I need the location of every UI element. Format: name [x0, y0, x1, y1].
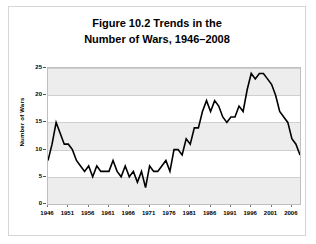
y-tick-mark [43, 121, 46, 122]
y-tick-label: 25 [20, 64, 42, 70]
gridline-y [48, 204, 300, 205]
y-tick-mark [43, 149, 46, 150]
y-tick-label: 15 [20, 118, 42, 124]
x-tick-label: 2006 [279, 210, 303, 217]
wars-line-path [48, 73, 300, 187]
plot-canvas [47, 67, 301, 205]
figure-title-line-2: Number of Wars, 1946–2008 [9, 31, 305, 47]
y-tick-label: 0 [20, 200, 42, 206]
y-tick-mark [43, 203, 46, 204]
y-tick-mark [43, 176, 46, 177]
y-tick-mark [43, 94, 46, 95]
y-tick-mark [43, 67, 46, 68]
figure-title: Figure 10.2 Trends in the Number of Wars… [9, 15, 305, 47]
y-tick-label: 10 [20, 146, 42, 152]
figure-container: Figure 10.2 Trends in the Number of Wars… [8, 6, 306, 236]
y-tick-label: 5 [20, 173, 42, 179]
wars-line-series [48, 68, 300, 204]
figure-title-line-1: Figure 10.2 Trends in the [9, 15, 305, 31]
y-tick-label: 20 [20, 91, 42, 97]
chart-area: Number of Wars Year 0510152025 194619511… [9, 57, 307, 235]
